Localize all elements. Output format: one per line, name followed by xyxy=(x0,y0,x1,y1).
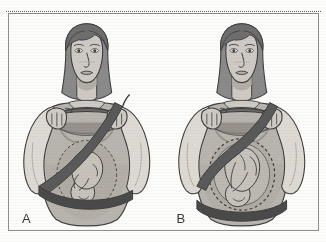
left-pupil xyxy=(77,49,80,52)
panel-b-label: B xyxy=(177,211,186,226)
right-pupil xyxy=(93,49,96,52)
panel-b-illustration xyxy=(164,14,319,230)
seatbelt-pregnancy-figure: A xyxy=(0,0,326,242)
perforation-line xyxy=(6,11,321,12)
left-pupil xyxy=(232,49,235,52)
mouth xyxy=(235,71,247,74)
panel-a-label: A xyxy=(22,211,31,226)
mouth xyxy=(81,71,93,74)
panel-a-illustration xyxy=(9,14,164,230)
panels-container: A xyxy=(9,14,318,230)
panel-b: B xyxy=(164,14,319,230)
right-pupil xyxy=(248,49,251,52)
panel-a: A xyxy=(9,14,164,230)
